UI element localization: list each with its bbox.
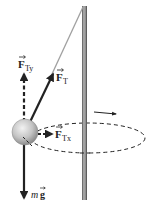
label-tension-x: F Tx [55,126,71,144]
pendulum-bob [12,119,38,145]
rotation-direction-arrow-icon [94,112,116,114]
svg-text:F: F [56,71,63,83]
vertical-pole [82,6,87,200]
conical-pendulum-diagram: F Ty F T F Tx m g [0,0,150,207]
svg-text:T: T [63,77,68,86]
label-tension: F T [56,69,68,87]
svg-text:Tx: Tx [62,134,71,143]
circular-path [31,123,145,153]
string [52,7,83,74]
tension-arrow [30,74,53,122]
svg-text:F: F [18,58,25,70]
label-tension-y: F Ty [18,56,33,74]
svg-text:Ty: Ty [25,64,33,73]
svg-text:g: g [40,189,45,200]
svg-text:F: F [55,128,62,140]
label-weight: m g [31,187,45,200]
svg-text:m: m [31,189,38,200]
